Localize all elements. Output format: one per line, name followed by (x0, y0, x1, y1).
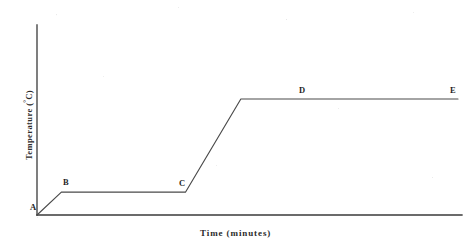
point-label-d: D (299, 86, 305, 95)
heating-curve-line (37, 99, 458, 215)
chart-figure: Temperature (°C) Time (minutes) A B C D … (0, 0, 470, 247)
y-axis-title: Temperature (°C) (22, 90, 34, 160)
x-axis-title: Time (minutes) (200, 228, 271, 238)
degree-symbol: ° (22, 100, 30, 103)
point-label-c: C (179, 179, 185, 188)
point-label-e: E (450, 86, 456, 95)
point-label-a: A (30, 203, 36, 212)
point-label-b: B (63, 178, 69, 187)
heating-curve-plot (0, 0, 470, 247)
y-axis-title-head: Temperature ( (24, 103, 34, 160)
y-axis-title-tail: C) (24, 90, 34, 100)
